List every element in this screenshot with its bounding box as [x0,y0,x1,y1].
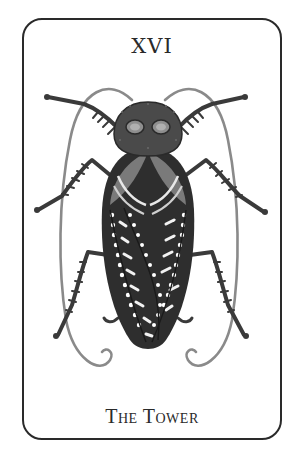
left-middle-leg [38,160,110,210]
left-hind-leg [58,252,108,335]
cockroach-icon [0,0,294,452]
cockroach-head [114,102,182,156]
right-middle-leg [186,160,264,212]
